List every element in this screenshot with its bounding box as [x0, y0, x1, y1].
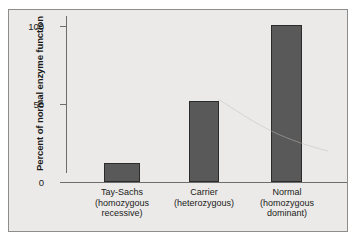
y-tick-mark-50	[60, 104, 67, 105]
plot-area: 100 50 0 Tay-Sachs (homozygous recessive…	[58, 11, 347, 231]
bar-carrier[interactable]	[189, 101, 219, 182]
x-axis-line	[66, 182, 347, 183]
y-tick-mark-100	[60, 26, 67, 27]
y-axis-line	[66, 16, 67, 173]
x-category-label-normal: Normal (homozygous dominant)	[244, 187, 330, 219]
y-tick-label-100: 100	[4, 26, 44, 27]
y-tick-label-0: 0	[4, 182, 44, 183]
figure-canvas: Percent of normal enzyme function 100 50…	[0, 0, 358, 246]
y-tick-label-50: 50	[4, 104, 44, 105]
bar-normal[interactable]	[271, 25, 302, 182]
chart-frame: Percent of normal enzyme function 100 50…	[8, 9, 348, 232]
x-category-label-tay-sachs: Tay-Sachs (homozygous recessive)	[80, 187, 164, 219]
bar-tay-sachs[interactable]	[104, 163, 140, 182]
x-category-label-carrier: Carrier (heterozygous)	[159, 187, 249, 208]
y-tick-mark-0	[60, 182, 67, 183]
y-axis-title: Percent of normal enzyme function	[34, 9, 45, 179]
